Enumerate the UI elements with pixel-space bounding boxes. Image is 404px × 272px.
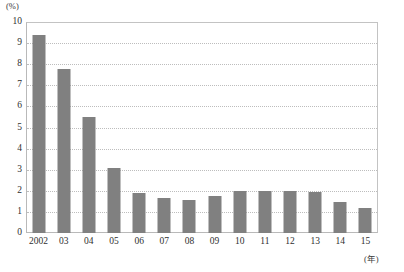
x-axis-tick-label: 10 [227, 236, 252, 247]
x-axis-tick-label: 06 [127, 236, 152, 247]
bars-group [26, 22, 378, 233]
bar[interactable] [133, 193, 146, 233]
bar-slot [177, 22, 202, 233]
y-axis-tick-label: 3 [2, 165, 22, 175]
bar-slot [227, 22, 252, 233]
y-axis-tick-label: 8 [2, 59, 22, 69]
bar-slot [51, 22, 76, 233]
x-axis-tick-label: 14 [328, 236, 353, 247]
x-axis-tick-label: 09 [202, 236, 227, 247]
bar-slot [303, 22, 328, 233]
y-axis-tick-label: 7 [2, 80, 22, 90]
x-axis-unit-label: (年) [364, 254, 379, 264]
y-axis-tick-label: 2 [2, 186, 22, 196]
bar[interactable] [107, 168, 120, 233]
bar-slot [202, 22, 227, 233]
bar[interactable] [258, 191, 271, 233]
y-axis-tick-label: 5 [2, 123, 22, 133]
x-axis-tick-label: 04 [76, 236, 101, 247]
bar-slot [127, 22, 152, 233]
x-axis-tick-label: 12 [277, 236, 302, 247]
y-axis-tick-label: 9 [2, 38, 22, 48]
bar-slot [353, 22, 378, 233]
x-axis-tick-label: 15 [353, 236, 378, 247]
bar[interactable] [158, 198, 171, 233]
x-axis-tick-label: 08 [177, 236, 202, 247]
bar[interactable] [82, 117, 95, 233]
bar[interactable] [309, 192, 322, 233]
y-axis-tick-label: 6 [2, 101, 22, 111]
x-axis-tick-label: 2002 [26, 236, 51, 247]
bar[interactable] [283, 191, 296, 233]
x-axis-tick-label: 07 [152, 236, 177, 247]
bar[interactable] [208, 196, 221, 233]
x-axis-tick-label: 13 [303, 236, 328, 247]
y-axis-tick-label: 4 [2, 144, 22, 154]
x-axis-tick-label: 05 [101, 236, 126, 247]
y-axis-tick-label: 1 [2, 207, 22, 217]
bar-slot [26, 22, 51, 233]
x-axis-tick-label: 03 [51, 236, 76, 247]
bar[interactable] [183, 200, 196, 233]
y-axis-tick-label: 10 [2, 17, 22, 27]
bar[interactable] [359, 208, 372, 233]
x-axis-tick-label: 11 [252, 236, 277, 247]
x-axis-tick-labels: 200203040506070809101112131415 [26, 236, 378, 252]
y-axis-tick-label: 0 [2, 228, 22, 238]
bar-slot [252, 22, 277, 233]
bar[interactable] [57, 69, 70, 233]
bar-slot [76, 22, 101, 233]
bar[interactable] [233, 191, 246, 233]
bar-slot [277, 22, 302, 233]
bar-slot [328, 22, 353, 233]
bar-slot [152, 22, 177, 233]
bar[interactable] [32, 35, 45, 233]
bar-chart-figure: (%) 109876543210 20020304050607080910111… [0, 0, 404, 272]
bar[interactable] [334, 202, 347, 233]
bar-slot [101, 22, 126, 233]
y-axis-unit-label: (%) [6, 1, 19, 11]
